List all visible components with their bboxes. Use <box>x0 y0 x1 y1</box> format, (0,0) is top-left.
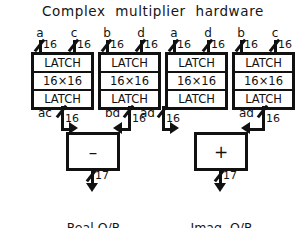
multiplier-core-2: 16×16 <box>168 73 225 91</box>
product-wire-bc-horizontal <box>248 128 265 131</box>
product-label-ad: ad <box>140 106 155 120</box>
input-bus-width-1: 16 <box>77 38 91 51</box>
input-bus-width-4: 16 <box>177 38 191 51</box>
subtractor-block: – <box>66 132 120 171</box>
latch-top-3: LATCH <box>235 55 292 73</box>
product-label-bd: bd <box>105 106 120 120</box>
adder-operator: + <box>197 143 245 161</box>
product-label-bc: ad <box>239 106 254 120</box>
output-bus-width-real: 17 <box>95 169 109 182</box>
input-bus-width-0: 16 <box>43 38 57 51</box>
multiplier-core-1: 16×16 <box>101 73 158 91</box>
input-bus-width-7: 16 <box>278 38 292 51</box>
latch-top-0: LATCH <box>34 55 91 73</box>
latch-bottom-3: LATCH <box>235 91 292 107</box>
subtractor-operator: – <box>69 143 117 161</box>
product-bus-width-ad: 16 <box>166 112 180 125</box>
multiplier-block-3: LATCH 16×16 LATCH <box>232 52 295 110</box>
complex-multiplier-diagram: Complex multiplier hardware a c b d a d … <box>0 0 306 228</box>
product-bus-width-ac: 16 <box>65 112 79 125</box>
input-bus-width-3: 16 <box>144 38 158 51</box>
output-bus-width-imag: 17 <box>223 169 237 182</box>
output-label-real: Real O/P (ac–bd) <box>47 194 139 228</box>
output-arrow-real <box>86 183 98 192</box>
multiplier-core-3: 16×16 <box>235 73 292 91</box>
adder-block: + <box>194 132 248 171</box>
latch-top-1: LATCH <box>101 55 158 73</box>
product-label-ac: ac <box>38 106 52 120</box>
latch-top-2: LATCH <box>168 55 225 73</box>
product-bus-width-bc: 16 <box>266 112 280 125</box>
input-bus-width-5: 16 <box>211 38 225 51</box>
diagram-title: Complex multiplier hardware <box>0 3 306 19</box>
multiplier-block-0: LATCH 16×16 LATCH <box>31 52 94 110</box>
multiplier-block-1: LATCH 16×16 LATCH <box>98 52 161 110</box>
output-label-real-line1: Real O/P <box>47 221 139 228</box>
multiplier-block-2: LATCH 16×16 LATCH <box>165 52 228 110</box>
output-arrow-imag <box>214 183 226 192</box>
output-label-imag: Imag. O/P (ad+bc) <box>175 194 267 228</box>
latch-bottom-1: LATCH <box>101 91 158 107</box>
latch-bottom-0: LATCH <box>34 91 91 107</box>
latch-bottom-2: LATCH <box>168 91 225 107</box>
multiplier-core-0: 16×16 <box>34 73 91 91</box>
input-bus-width-2: 16 <box>110 38 124 51</box>
input-bus-width-6: 16 <box>244 38 258 51</box>
output-label-imag-line1: Imag. O/P <box>175 221 267 228</box>
